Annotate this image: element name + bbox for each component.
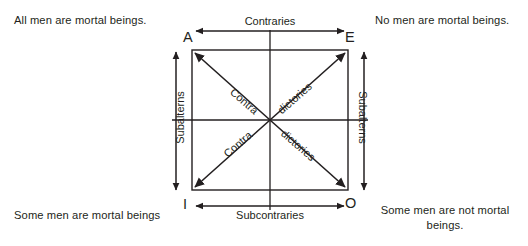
statement-i-particular-affirmative: Some men are mortal beings xyxy=(14,208,160,223)
statement-o-particular-negative: Some men are not mortal beings. xyxy=(375,203,515,233)
vertex-label-o: O xyxy=(345,196,356,211)
relation-label-subalterns-left: Subalterns xyxy=(175,78,186,158)
vertex-label-i: I xyxy=(183,197,187,212)
relation-label-subcontraries: Subcontraries xyxy=(196,210,344,221)
vertex-label-e: E xyxy=(345,30,355,45)
statement-e-universal-negative: No men are mortal beings. xyxy=(375,13,509,28)
square-of-opposition-diagram: All men are mortal beings. No men are mo… xyxy=(0,0,528,246)
relation-label-subalterns-right: Subalterns xyxy=(357,78,368,158)
vertex-label-a: A xyxy=(183,30,193,45)
relation-label-contraries: Contraries xyxy=(200,16,340,27)
statement-a-universal-affirmative: All men are mortal beings. xyxy=(14,13,147,28)
